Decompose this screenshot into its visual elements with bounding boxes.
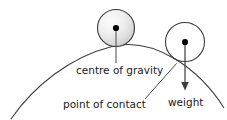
centre-of-gravity-dot-left (113, 25, 119, 31)
label-centre-of-gravity: centre of gravity (76, 64, 163, 76)
label-point-of-contact: point of contact (63, 98, 146, 110)
centre-of-gravity-dot-right (182, 39, 188, 45)
label-weight: weight (168, 96, 203, 108)
physics-diagram: centre of gravity point of contact weigh… (0, 0, 227, 120)
weight-arrowhead-icon (181, 82, 189, 91)
diagram-canvas: centre of gravity point of contact weigh… (0, 0, 227, 120)
